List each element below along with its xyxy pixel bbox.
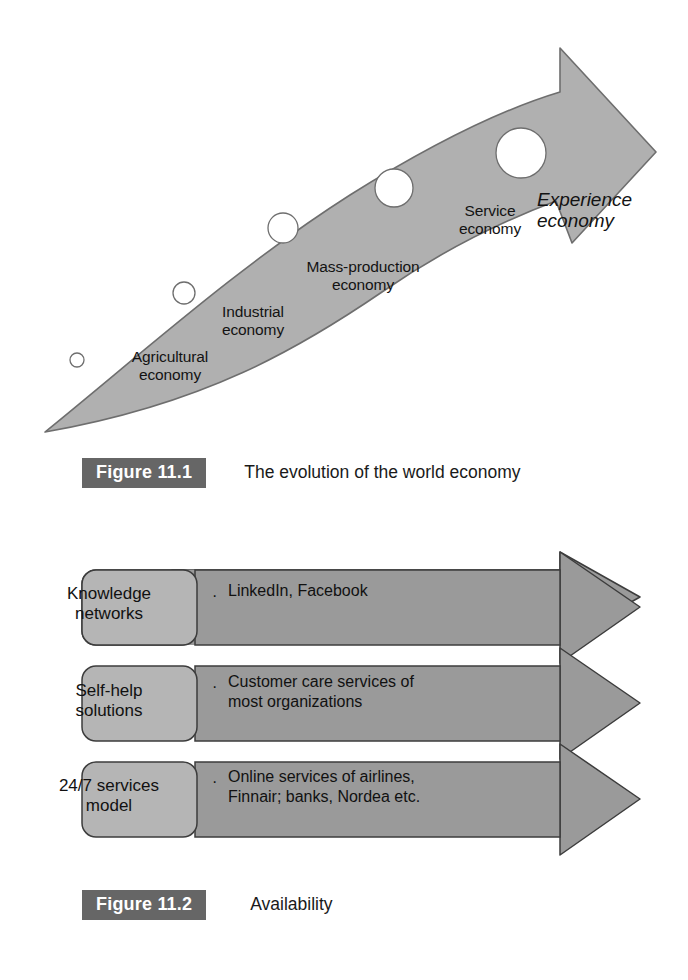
bullet-icon-3: ·: [212, 774, 217, 790]
availability-row-body-3: Online services of airlines, Finnair; ba…: [228, 767, 518, 807]
figure-11-2-caption-text: Availability: [250, 894, 332, 915]
figure-11-2: Knowledge networks · LinkedIn, Facebook …: [0, 548, 688, 858]
availability-row-title-2: Self-help solutions: [26, 681, 192, 722]
row-arrow-head-3: [560, 744, 640, 855]
figure-11-1-tag: Figure 11.1: [82, 458, 206, 488]
figure-11-1-caption-text: The evolution of the world economy: [244, 462, 520, 483]
stage-label-mass-production: Mass-production economy: [283, 258, 443, 295]
figure-11-1-caption: Figure 11.1 The evolution of the world e…: [82, 458, 521, 488]
availability-row-body-1: LinkedIn, Facebook: [228, 581, 498, 601]
availability-row-title-3: 24/7 services model: [26, 776, 192, 817]
stage-label-agricultural: Agricultural economy: [105, 348, 235, 385]
stage-marker-experience: [496, 128, 546, 178]
stage-marker-industrial: [173, 282, 195, 304]
bullet-icon-1: ·: [212, 588, 217, 604]
figure-11-2-caption: Figure 11.2 Availability: [82, 890, 333, 920]
stage-label-service: Service economy: [435, 202, 545, 239]
row-arrow-head-2: [560, 648, 640, 759]
stage-label-industrial: Industrial economy: [193, 303, 313, 340]
availability-row-title-1: Knowledge networks: [26, 584, 192, 625]
figure-11-2-tag: Figure 11.2: [82, 890, 206, 920]
bullet-icon-2: ·: [212, 679, 217, 695]
availability-row-body-2: Customer care services of most organizat…: [228, 672, 498, 712]
stage-marker-agricultural: [70, 353, 84, 367]
stage-label-experience: Experience economy: [537, 190, 682, 232]
stage-marker-service: [375, 169, 413, 207]
row-arrow-head-1: [560, 552, 640, 663]
figure-11-1: Agricultural economy Industrial economy …: [0, 0, 688, 440]
stage-marker-mass-production: [268, 213, 298, 243]
